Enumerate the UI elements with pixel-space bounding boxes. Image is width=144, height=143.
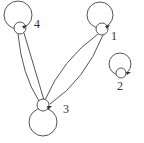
node-1	[96, 23, 108, 35]
edge-3-1	[50, 35, 103, 104]
node-3	[37, 99, 49, 111]
self-loop-3	[29, 108, 57, 136]
graph-diagram: 4 1 3 2	[0, 0, 144, 143]
node-label-2: 2	[117, 80, 123, 92]
graph-edges	[0, 0, 144, 143]
edge-3-4	[24, 33, 44, 100]
node-label-1: 1	[111, 30, 117, 42]
node-label-4: 4	[34, 18, 40, 30]
node-2	[116, 68, 126, 78]
edge-1-3	[45, 34, 98, 100]
node-label-3: 3	[63, 103, 69, 115]
arrowhead-2	[126, 72, 131, 75]
edge-4-3	[18, 34, 39, 101]
